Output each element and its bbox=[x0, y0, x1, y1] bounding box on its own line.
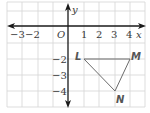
y-tick-neg3: −3 bbox=[52, 70, 67, 81]
point-label-n: N bbox=[116, 94, 125, 105]
y-tick-neg4: −4 bbox=[52, 86, 67, 97]
x-tick-1: 1 bbox=[81, 29, 87, 40]
y-axis-label: y bbox=[71, 4, 78, 15]
point-label-l: L bbox=[75, 51, 81, 62]
point-label-m: M bbox=[131, 51, 141, 62]
x-axis-label: x bbox=[136, 29, 142, 40]
x-tick-4: 4 bbox=[126, 29, 132, 40]
x-tick-2: 2 bbox=[96, 29, 102, 40]
x-tick-neg2: −2 bbox=[25, 29, 40, 40]
x-tick-neg3: −3 bbox=[10, 29, 25, 40]
coordinate-plane: y x O −3 −2 1 2 3 4 −2 −3 −4 L M N bbox=[0, 0, 150, 113]
y-tick-neg2: −2 bbox=[52, 54, 67, 65]
x-tick-3: 3 bbox=[111, 29, 117, 40]
origin-label: O bbox=[57, 29, 65, 40]
